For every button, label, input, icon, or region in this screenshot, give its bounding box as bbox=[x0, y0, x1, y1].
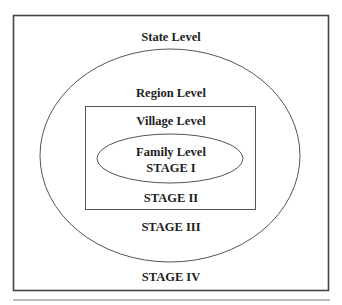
village-level-label: Village Level bbox=[0, 114, 342, 128]
family-level-label: Family Level bbox=[0, 145, 342, 159]
region-level-label: Region Level bbox=[0, 86, 342, 100]
state-level-label: State Level bbox=[0, 30, 342, 44]
stage-3-label: STAGE III bbox=[0, 220, 342, 234]
stage-4-label: STAGE IV bbox=[0, 270, 342, 284]
stage-2-label: STAGE II bbox=[0, 191, 342, 205]
stage-1-label: STAGE I bbox=[0, 161, 342, 175]
